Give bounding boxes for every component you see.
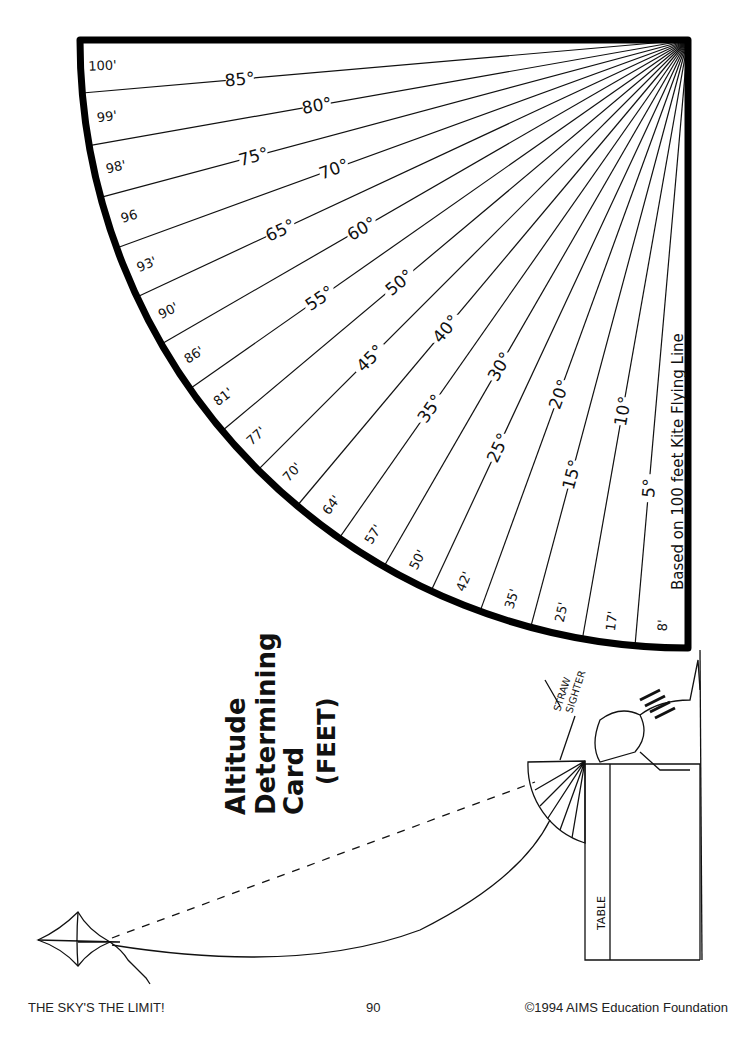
angle-line bbox=[82, 40, 688, 93]
altitude-label: 77' bbox=[243, 424, 268, 449]
altitude-label: 93' bbox=[134, 253, 158, 275]
angle-line bbox=[531, 40, 688, 627]
angle-label: 85° bbox=[224, 68, 256, 91]
altitude-label: 81' bbox=[211, 385, 236, 409]
kite-string bbox=[112, 820, 550, 957]
page-number: 90 bbox=[366, 1000, 380, 1015]
kite-icon bbox=[38, 912, 110, 966]
altitude-label: 70' bbox=[280, 460, 305, 485]
altitude-label: 35' bbox=[502, 587, 522, 611]
child bbox=[595, 660, 700, 770]
angle-line bbox=[137, 40, 688, 297]
table-label: TABLE bbox=[595, 896, 608, 931]
altitude-label: 50' bbox=[406, 547, 429, 572]
copyright: ©1994 AIMS Education Foundation bbox=[525, 1000, 728, 1015]
title-line-1: Altitude bbox=[221, 697, 251, 815]
angle-line bbox=[480, 40, 688, 611]
angle-label: 5° bbox=[638, 478, 660, 499]
book-title: THE SKY'S THE LIMIT! bbox=[28, 1000, 165, 1015]
angle-line bbox=[431, 40, 688, 591]
title-line-4: (FEET) bbox=[313, 698, 341, 786]
table-child-illustration bbox=[528, 650, 702, 960]
kite-line-note: Based on 100 feet Kite Flying Line bbox=[669, 333, 687, 590]
altitude-label: 64' bbox=[319, 492, 343, 517]
altitude-label: 42' bbox=[453, 569, 475, 593]
altitude-label: 17' bbox=[603, 610, 620, 632]
title-line-3: Card bbox=[279, 747, 309, 815]
sight-line bbox=[112, 782, 535, 938]
angle-lines bbox=[82, 40, 688, 646]
altitude-label: 57' bbox=[361, 522, 384, 547]
card-title: Altitude Determining Card (FEET) bbox=[221, 632, 341, 815]
straw-sighter-label: STRAW SIGHTER bbox=[551, 665, 587, 716]
angle-line bbox=[117, 40, 688, 248]
altitude-label: 99' bbox=[96, 108, 118, 125]
altitude-label: 86' bbox=[181, 343, 206, 366]
altitude-label: 98' bbox=[104, 157, 127, 176]
angle-line bbox=[101, 40, 688, 197]
altitude-card-page: 5°10°15°20°25°30°35°40°45°50°55°60°65°70… bbox=[0, 0, 754, 1041]
altitude-label: 8' bbox=[655, 619, 671, 632]
title-line-2: Determining bbox=[251, 632, 281, 815]
altitude-label: 96 bbox=[119, 207, 139, 226]
altitude-label: 25' bbox=[552, 601, 571, 624]
altitude-label: 100' bbox=[88, 57, 117, 73]
altitude-label: 90' bbox=[156, 299, 181, 322]
altitude-quadrant: 5°10°15°20°25°30°35°40°45°50°55°60°65°70… bbox=[80, 40, 688, 648]
